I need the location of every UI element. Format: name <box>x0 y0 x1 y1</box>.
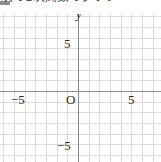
origin-label: O <box>66 93 75 106</box>
y-tick-label-minus-5: −5 <box>57 139 71 152</box>
header-text-fragment: 次の1次関数のグラフ <box>1 0 117 3</box>
y-tick-label-5: 5 <box>64 37 71 50</box>
graph-screenshot: 次の1次関数のグラフ <box>0 0 161 162</box>
axes <box>0 14 161 162</box>
x-tick-label-5: 5 <box>128 93 135 106</box>
y-axis <box>78 14 79 162</box>
coordinate-plane: y 5 O −5 −5 5 <box>0 14 161 162</box>
y-axis-label: y <box>76 14 82 20</box>
x-tick-label-minus-5: −5 <box>11 93 25 106</box>
clipped-header-strip: 次の1次関数のグラフ <box>0 0 161 14</box>
